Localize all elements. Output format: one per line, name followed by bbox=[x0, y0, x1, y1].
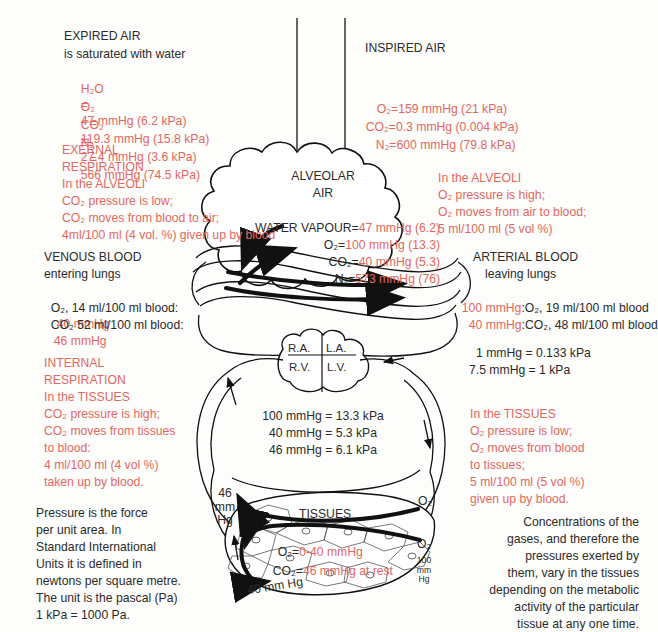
inspired-air-heading: INSPIRED AIR bbox=[365, 40, 446, 56]
tissues-label: TISSUES bbox=[299, 506, 351, 522]
external-respiration-line2: RESPIRATION bbox=[62, 159, 144, 175]
alveoli-note-line3: O₂ moves from air to blood; bbox=[438, 204, 586, 220]
heart-label-left-atrium: L.A. bbox=[326, 341, 346, 356]
gas-label: N₂ bbox=[335, 272, 349, 286]
concentration-note-line3: pressures exerted by bbox=[443, 548, 639, 564]
concentration-note-line4: them, vary in the tissues bbox=[443, 565, 639, 581]
gas-label: N₂ bbox=[376, 138, 390, 152]
row-value: 40 mmHg bbox=[469, 318, 522, 332]
tissues-co2-row: CO₂=46 mmHg at rest bbox=[266, 547, 393, 579]
alveoli-note-line4: 5 ml/100 ml (5 vol %) bbox=[438, 221, 552, 237]
concentration-note-line2: gases, and therefore the bbox=[443, 531, 639, 547]
row-value: 46 mmHg bbox=[51, 334, 107, 348]
external-respiration-line1: EXERNAL bbox=[62, 142, 119, 158]
tissues-note-line5: 5 ml/100 ml (5 vol %) bbox=[470, 474, 584, 490]
venous-blood-heading: VENOUS BLOOD bbox=[44, 249, 142, 265]
arterial-blood-subheading: leaving lungs bbox=[485, 266, 556, 282]
tissues-note-line1: In the TISSUES bbox=[470, 406, 556, 422]
external-respiration-line4: CO₂ pressure is low; bbox=[62, 193, 173, 209]
internal-respiration-line7: 4 ml/100 ml (4 vol %) bbox=[44, 457, 158, 473]
internal-respiration-line8: taken up by blood. bbox=[44, 474, 144, 490]
arterial-blood-row-co2: 40 mmHg:CO₂, 48 ml/100 ml blood bbox=[462, 301, 658, 333]
alveoli-note-line2: O₂ pressure is high; bbox=[438, 187, 545, 203]
pressure-definition-line1: Pressure is the force bbox=[36, 505, 148, 521]
inspired-air-row-n2: N₂=600 mmHg (79.8 kPa) bbox=[369, 121, 516, 153]
tissues-note-line2: O₂ pressure is low; bbox=[470, 423, 572, 439]
pressure-definition-line6: The unit is the pascal (Pa) bbox=[36, 590, 178, 606]
arterial-blood-heading: ARTERIAL BLOOD bbox=[473, 249, 578, 265]
conversion-list-item-1: 40 mmHg = 5.3 kPa bbox=[248, 425, 398, 441]
expired-air-subheading: is saturated with water bbox=[64, 46, 185, 62]
tissue-marker-46-mmhg: 46 mm Hg bbox=[209, 487, 241, 528]
tissues-note-line3: O₂ moves from blood bbox=[470, 440, 584, 456]
gas-value: 46 mmHg at rest bbox=[303, 564, 393, 578]
alveolar-air-row-n2: N₂=573 mmHg (76) bbox=[210, 255, 440, 287]
conversion-list-item-0: 100 mmHg = 13.3 kPa bbox=[248, 408, 398, 424]
internal-respiration-line6: to blood: bbox=[44, 440, 91, 456]
conversion-list-item-2: 46 mmHg = 6.1 kPa bbox=[248, 442, 398, 458]
concentration-note-line7: tissue at any one time. bbox=[443, 616, 639, 632]
gas-value: 573 mmHg (76) bbox=[355, 272, 440, 286]
concentration-note-line1: Concentrations of the bbox=[443, 514, 639, 530]
internal-respiration-line1: INTERNAL bbox=[44, 355, 104, 371]
conversion-box-line1: 1 mmHg = 0.133 kPa bbox=[476, 345, 591, 361]
pressure-definition-line7: 1 kPa = 1000 Pa. bbox=[36, 607, 130, 623]
external-respiration-line3: In the ALVEOLI bbox=[62, 176, 145, 192]
internal-respiration-line5: CO₂ moves from tissues bbox=[44, 423, 175, 439]
venous-blood-row-co2: CO₂ 52 ml/100 ml blood: 46 mmHg bbox=[44, 301, 184, 349]
internal-respiration-line3: In the TISSUES bbox=[44, 389, 130, 405]
concentration-note-line5: depending on the metabolic bbox=[443, 582, 639, 598]
pressure-definition-line3: Standard International bbox=[36, 539, 156, 555]
gas-value: 600 mmHg (79.8 kPa) bbox=[396, 138, 515, 152]
heart-label-left-ventricle: L.V. bbox=[327, 360, 346, 375]
blood-flow-arrow-lower bbox=[226, 288, 398, 299]
venous-blood-subheading: entering lungs bbox=[44, 266, 121, 282]
tissue-marker-100-mmhg: 100 mm Hg bbox=[410, 556, 438, 585]
conversion-box-line2: 7.5 mmHg = 1 kPa bbox=[469, 362, 570, 378]
tissues-note-line4: to tissues; bbox=[470, 457, 525, 473]
alveolar-air-heading-line1: ALVEOLAR bbox=[268, 168, 378, 184]
internal-respiration-line4: CO₂ pressure is high; bbox=[44, 406, 160, 422]
pressure-definition-line5: newtons per square metre. bbox=[36, 573, 181, 589]
row-label: CO₂ 52 ml/100 ml blood: bbox=[51, 318, 184, 332]
tissue-marker-o2-top: O₂ bbox=[418, 493, 432, 509]
concentration-note-line6: activity of the particular bbox=[443, 599, 639, 615]
expired-air-heading: EXPIRED AIR bbox=[64, 28, 141, 44]
row-label: :CO₂, 48 ml/100 ml blood bbox=[522, 318, 658, 332]
pressure-definition-line4: Units it is defined in bbox=[36, 556, 142, 572]
internal-respiration-line2: RESPIRATION bbox=[44, 372, 126, 388]
alveoli-note-line1: In the ALVEOLI bbox=[438, 170, 521, 186]
pressure-definition-line2: per unit area. In bbox=[36, 522, 121, 538]
trachea-icon bbox=[297, 18, 345, 150]
alveolar-air-heading-line2: AIR bbox=[268, 185, 378, 201]
external-respiration-line5: CO₂ moves from blood to air; bbox=[62, 210, 219, 226]
heart-label-right-atrium: R.A. bbox=[288, 341, 310, 356]
tissues-note-line6: given up by blood. bbox=[470, 491, 569, 507]
tissue-marker-o2-bottom: O₂ bbox=[417, 536, 431, 552]
heart-label-right-ventricle: R.V. bbox=[289, 360, 310, 375]
